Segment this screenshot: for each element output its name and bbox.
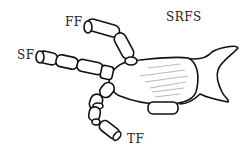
sf-segment-2 [55,54,79,70]
label-tf: TF [127,132,144,146]
ff-tip [84,21,92,33]
hind-segment [148,102,178,114]
label-sf: SF [17,48,35,62]
sf-segment-4 [100,65,114,80]
ff-joint [125,57,137,65]
sf-segment-3 [76,58,104,75]
sf-tip [36,51,44,63]
diagram-title: SRFS [166,10,202,24]
creature-drawing [0,0,246,154]
tf-joint-2 [92,119,100,125]
label-ff: FF [65,15,83,29]
